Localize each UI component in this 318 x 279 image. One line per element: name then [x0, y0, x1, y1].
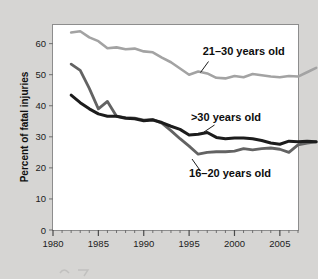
x-tick-label: 2005 — [269, 238, 290, 249]
chart-figure: 0102030405060 Percent of fatal injuries … — [0, 0, 318, 279]
y-axis-title: Percent of fatal injuries — [19, 71, 30, 182]
series-annotation-label: 21–30 years old — [203, 45, 285, 57]
x-tick-label: 1985 — [88, 238, 109, 249]
y-tick-label: 30 — [35, 131, 46, 142]
chart-canvas: 0102030405060 Percent of fatal injuries … — [0, 0, 318, 279]
y-tick-label: 0 — [41, 225, 46, 236]
y-tick-label: 40 — [35, 100, 46, 111]
y-tick-label: 60 — [35, 38, 46, 49]
x-tick-label: 1995 — [179, 238, 200, 249]
series-annotation-label: >30 years old — [191, 111, 261, 123]
x-tick-label: 2000 — [224, 238, 245, 249]
y-tick-label: 10 — [35, 193, 46, 204]
y-tick-label: 20 — [35, 162, 46, 173]
x-tick-label: 1980 — [42, 238, 63, 249]
y-tick-label: 50 — [35, 69, 46, 80]
series-annotation-label: 16–20 years old — [189, 167, 271, 179]
x-tick-label: 1990 — [133, 238, 154, 249]
